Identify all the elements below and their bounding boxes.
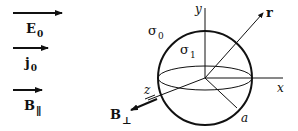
j0-symbol: j — [25, 55, 30, 70]
label-b-perp: B⊥ — [110, 108, 132, 121]
b-parallel-subscript: ∥ — [36, 105, 42, 118]
label-y-axis: y — [195, 3, 202, 15]
e0-subscript: 0 — [37, 29, 43, 39]
label-b-parallel: B∥ — [24, 99, 42, 112]
sigma1-symbol: σ — [180, 42, 189, 57]
radius-line — [205, 78, 237, 108]
label-j0: j0 — [25, 56, 37, 69]
label-e0: E0 — [26, 22, 43, 35]
b-parallel-symbol: B — [24, 98, 35, 113]
b-perp-symbol: B — [110, 107, 121, 122]
label-r: r — [266, 6, 273, 19]
label-radius-a: a — [241, 112, 248, 124]
diagram-canvas — [0, 0, 298, 131]
sigma0-subscript: 0 — [158, 31, 164, 41]
j0-subscript: 0 — [31, 63, 37, 73]
z-axis — [148, 78, 205, 100]
b-perp-subscript: ⊥ — [122, 115, 132, 126]
label-z-axis: z — [144, 84, 150, 96]
e0-symbol: E — [26, 21, 36, 36]
sigma0-symbol: σ — [148, 23, 157, 38]
label-sigma0: σ0 — [148, 24, 164, 37]
b-perp-arrow — [131, 99, 157, 110]
sigma1-subscript: 1 — [190, 50, 196, 60]
label-x-axis: x — [277, 82, 284, 94]
label-sigma1: σ1 — [180, 43, 196, 56]
